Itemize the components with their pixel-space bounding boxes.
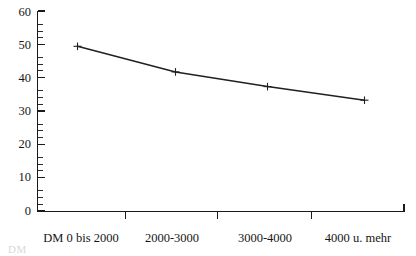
y-axis-tick-labels: 60 50 40 30 20 10 0: [19, 5, 32, 218]
y-axis: 60 50 40 30 20 10 0: [19, 5, 46, 218]
line-chart: 60 50 40 30 20 10 0 DM 0 bis 2000 2000-3…: [0, 0, 416, 256]
x-tick-label-0: DM 0 bis 2000: [43, 231, 118, 245]
data-point-2: [264, 83, 272, 91]
y-axis-major-ticks: [38, 11, 46, 211]
y-tick-label-50: 50: [19, 38, 32, 52]
x-tick-label-2: 3000-4000: [238, 231, 292, 245]
data-point-3: [361, 96, 369, 104]
y-tick-label-30: 30: [19, 104, 32, 118]
x-axis-tick-labels: DM 0 bis 2000 2000-3000 3000-4000 4000 u…: [43, 231, 392, 245]
x-tick-label-3: 4000 u. mehr: [325, 231, 392, 245]
x-tick-label-1: 2000-3000: [145, 231, 199, 245]
scan-artifact-text: DM: [8, 243, 27, 255]
y-tick-label-60: 60: [19, 5, 32, 19]
data-series: [74, 43, 369, 105]
y-tick-label-10: 10: [19, 170, 32, 184]
y-tick-label-0: 0: [25, 204, 31, 218]
y-tick-label-40: 40: [19, 71, 32, 85]
series-line-0: [78, 46, 365, 100]
chart-canvas: 60 50 40 30 20 10 0 DM 0 bis 2000 2000-3…: [0, 0, 416, 256]
x-axis: DM 0 bis 2000 2000-3000 3000-4000 4000 u…: [38, 204, 405, 246]
data-point-1: [172, 68, 180, 76]
data-point-0: [74, 43, 82, 51]
y-tick-label-20: 20: [19, 137, 32, 151]
